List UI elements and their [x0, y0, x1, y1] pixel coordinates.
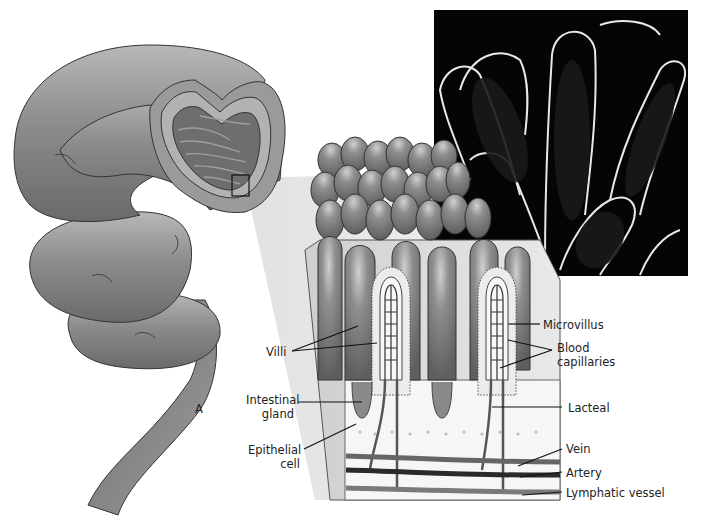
- label-epithelial-cell: Epithelial cell: [248, 443, 300, 471]
- villi-micrograph: [434, 10, 688, 277]
- label-villi: Villi: [266, 345, 286, 359]
- label-epithelial-cell-line1: Epithelial: [248, 443, 300, 457]
- label-vein: Vein: [566, 442, 591, 456]
- label-intestinal-gland-line1: Intestinal: [246, 393, 294, 407]
- small-intestine-villi-figure: A Villi Intestinal gland Epithelial cell…: [0, 0, 701, 522]
- label-artery: Artery: [566, 466, 602, 480]
- small-intestine-illustration: [14, 45, 285, 515]
- label-microvillus: Microvillus: [543, 318, 604, 332]
- label-epithelial-cell-line2: cell: [248, 457, 300, 471]
- panel-letter-a: A: [195, 402, 203, 416]
- sectioned-villus-left: [372, 267, 410, 395]
- label-intestinal-gland: Intestinal gland: [246, 393, 294, 421]
- label-lymphatic-vessel: Lymphatic vessel: [566, 486, 665, 500]
- label-blood-capillaries: Blood capillaries: [557, 341, 615, 369]
- label-lacteal: Lacteal: [568, 401, 610, 415]
- label-blood-capillaries-line2: capillaries: [557, 355, 615, 369]
- label-intestinal-gland-line2: gland: [246, 407, 294, 421]
- label-blood-capillaries-line1: Blood: [557, 341, 615, 355]
- sectioned-villus-right: [478, 267, 516, 395]
